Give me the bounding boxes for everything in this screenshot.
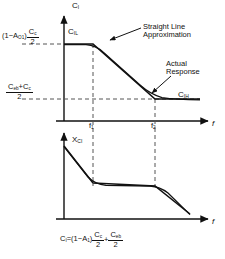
bottom-plot-axes [56,133,208,219]
high-level-fraction: Cc2 [27,28,39,45]
top-plot-high-level-label: (1−AO1)Cc2 [2,28,39,45]
caption-equation: CI=(1−A1)Cc2+Ceb2 [60,231,123,248]
annotation-actual-response: Actual Response [166,60,200,76]
bottom-plot-x-axis-label: f [212,218,214,226]
x-tick-label-f1: f1 [89,122,94,131]
curve-label-cil: CIL [68,28,78,36]
top-plot-x-axis-label: f [212,120,214,128]
bottom-plot-guides [93,128,155,186]
caption-fraction-1: Cc2 [92,231,104,248]
figure-container: CI f XCI f (1−AO1)Cc2 Ceb+Cc2 CIL CIH St… [0,0,225,259]
bottom-plot-y-axis-label: XCI [72,136,82,144]
annotation-straight-line-approximation: Straight Line Approximation [143,23,191,39]
bottom-straight-line-approximation [64,146,190,214]
top-plot-y-axis-label: CI [72,2,79,10]
curve-label-cih: CIH [178,91,189,99]
caption-fraction-2: Ceb2 [108,231,123,248]
bottom-actual-response [64,147,190,215]
top-plot-guides [22,44,200,128]
top-plot-low-level-label: Ceb+Cc2 [6,83,33,100]
low-level-fraction: Ceb+Cc2 [6,83,33,100]
x-tick-label-f2: f2 [151,122,156,131]
